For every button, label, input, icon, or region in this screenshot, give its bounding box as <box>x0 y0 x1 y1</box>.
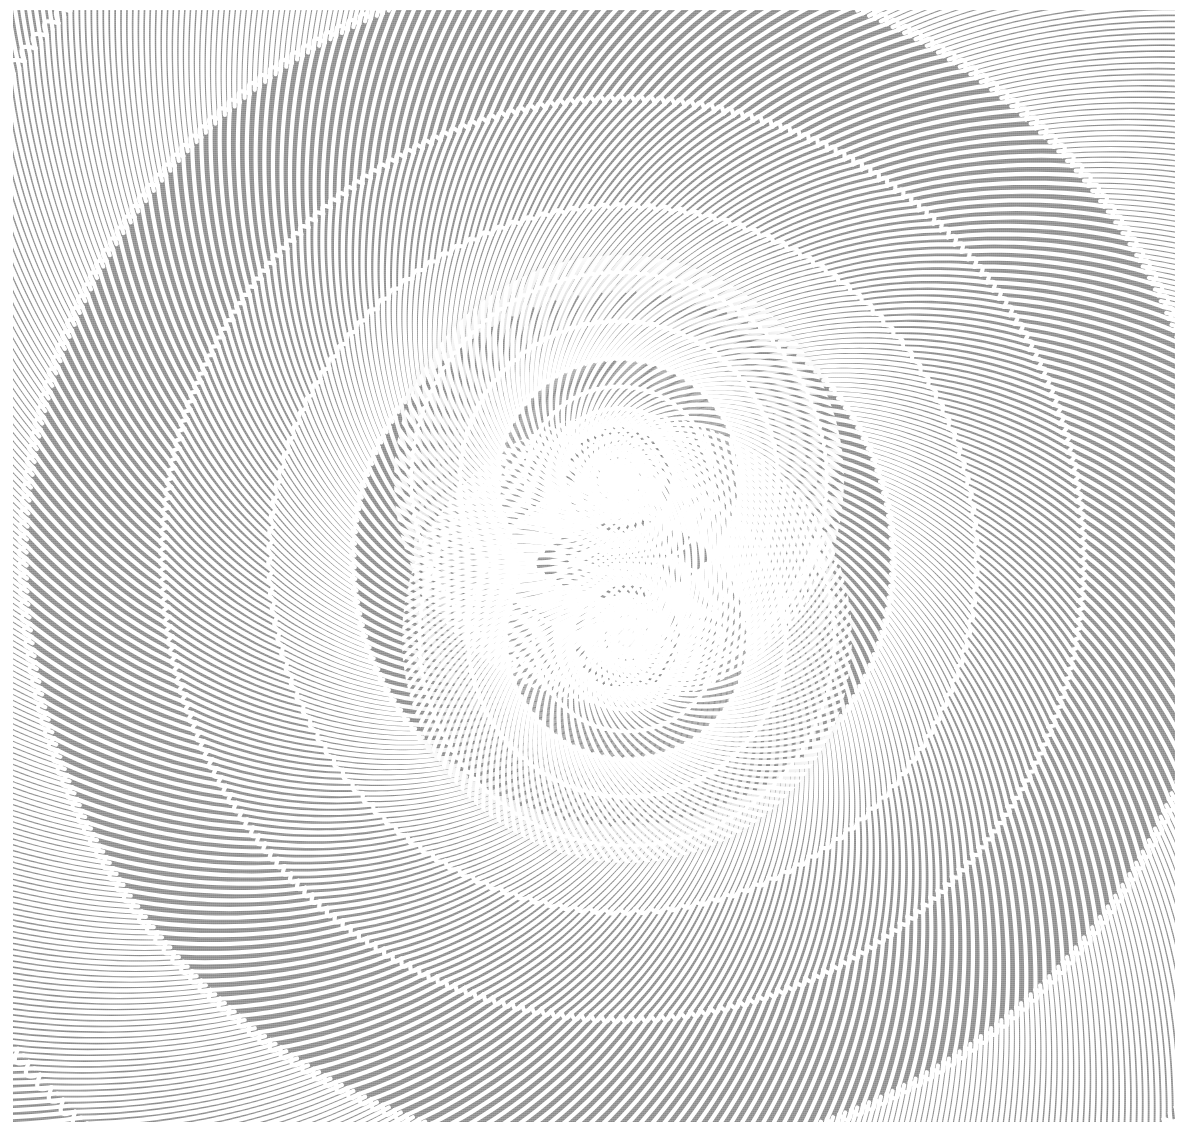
spiral-tessellation-canvas <box>0 0 1188 1133</box>
artboard: Double-Centre Spiral Tessellation <box>0 0 1188 1133</box>
